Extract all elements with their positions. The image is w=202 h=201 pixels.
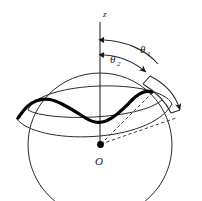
angular-band-cap-top bbox=[143, 76, 150, 84]
origin-point bbox=[97, 141, 104, 148]
angular-band-cap-bottom bbox=[171, 110, 180, 113]
radius-ray-lower bbox=[101, 118, 176, 144]
theta2-subscript: 2 bbox=[117, 60, 121, 68]
axis-z-label: z bbox=[102, 9, 107, 19]
spherical-angle-diagram: z O θ 1 θ 2 bbox=[0, 0, 202, 201]
theta1-label: θ bbox=[140, 43, 146, 55]
oscillating-trajectory bbox=[18, 91, 152, 122]
diagram-canvas: z O θ 1 θ 2 bbox=[0, 0, 202, 201]
theta1-subscript: 1 bbox=[147, 50, 151, 58]
origin-label: O bbox=[95, 155, 103, 167]
theta2-label: θ bbox=[110, 53, 116, 65]
